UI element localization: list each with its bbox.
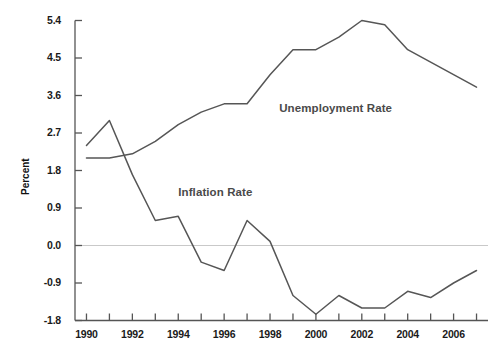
- axis-lines: [75, 21, 488, 321]
- tick-marks: [75, 21, 477, 321]
- data-series-lines: [86, 21, 476, 315]
- chart-container: Percent 5.44.53.62.71.80.90.0-0.9-1.8 19…: [0, 0, 495, 347]
- plot-area: [0, 0, 495, 347]
